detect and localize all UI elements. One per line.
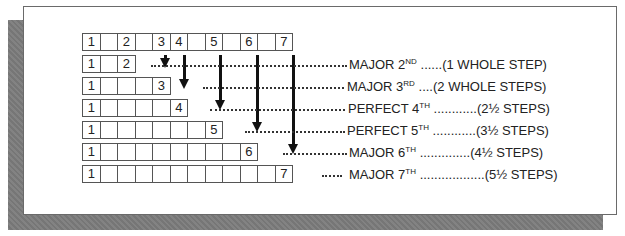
dot-leader: .................. — [420, 167, 485, 182]
empty-cell — [152, 143, 171, 161]
empty-cell — [152, 99, 171, 117]
interval-name: MAJOR 6 — [349, 145, 405, 160]
interval-row-major-3rd: 1 3 — [82, 77, 170, 95]
empty-cell — [135, 77, 154, 95]
ordinal-suffix: TH — [405, 167, 416, 176]
interval-name: MAJOR 7 — [349, 167, 405, 182]
step-count: (3½ STEPS) — [476, 123, 549, 138]
empty-cell — [135, 121, 154, 139]
interval-row-perfect-4th: 1 4 — [82, 99, 187, 117]
degree-cell: 7 — [275, 165, 294, 183]
dot-leader: .............. — [420, 145, 471, 160]
empty-cell — [222, 165, 241, 183]
interval-label: PERFECT 4TH ............(2½ STEPS) — [348, 101, 550, 117]
scale-cell: 1 — [82, 33, 101, 51]
leader-line — [283, 153, 347, 155]
empty-cell — [117, 143, 136, 161]
ordinal-suffix: ND — [405, 57, 417, 66]
interval-row-perfect-5th: 1 5 — [82, 121, 222, 139]
root-cell: 1 — [82, 143, 101, 161]
step-count: (2 WHOLE STEPS) — [433, 79, 546, 94]
step-count: (1 WHOLE STEP) — [442, 57, 547, 72]
interval-name: MAJOR 2 — [349, 57, 405, 72]
arrow-down-icon — [219, 55, 222, 101]
degree-cell: 4 — [170, 99, 189, 117]
empty-cell — [170, 165, 189, 183]
empty-cell — [187, 121, 206, 139]
empty-cell — [117, 121, 136, 139]
empty-cell — [135, 143, 154, 161]
empty-cell — [187, 165, 206, 183]
interval-label: MAJOR 7TH ..................(5½ STEPS) — [349, 167, 558, 183]
empty-cell — [117, 165, 136, 183]
empty-cell — [152, 165, 171, 183]
empty-cell — [135, 165, 154, 183]
scale-row: 1 2 3 4 5 6 7 — [82, 33, 292, 51]
leader-line — [203, 87, 344, 89]
degree-cell: 6 — [240, 143, 259, 161]
empty-cell — [100, 99, 119, 117]
root-cell: 1 — [82, 77, 101, 95]
empty-cell — [117, 99, 136, 117]
empty-cell — [152, 121, 171, 139]
scale-cell — [100, 33, 119, 51]
leader-line — [210, 109, 345, 111]
root-cell: 1 — [82, 121, 101, 139]
interval-label: MAJOR 2ND ......(1 WHOLE STEP) — [349, 57, 547, 73]
scale-cell — [187, 33, 206, 51]
scale-cell: 4 — [170, 33, 189, 51]
interval-label: MAJOR 3RD ....(2 WHOLE STEPS) — [347, 79, 546, 95]
step-count: (5½ STEPS) — [485, 167, 558, 182]
scale-cell: 3 — [152, 33, 171, 51]
ordinal-suffix: TH — [418, 123, 429, 132]
interval-name: PERFECT 4 — [348, 101, 419, 116]
root-cell: 1 — [82, 165, 101, 183]
dot-leader: ............ — [433, 123, 476, 138]
empty-cell — [257, 165, 276, 183]
empty-cell — [117, 77, 136, 95]
ordinal-suffix: RD — [403, 79, 415, 88]
interval-name: MAJOR 3 — [347, 79, 403, 94]
scale-cell: 5 — [205, 33, 224, 51]
step-count: (4½ STEPS) — [470, 145, 543, 160]
empty-cell — [135, 99, 154, 117]
dot-leader: .... — [419, 79, 433, 94]
interval-row-major-2nd: 1 2 — [82, 55, 135, 73]
leader-line — [151, 65, 347, 67]
root-cell: 1 — [82, 55, 101, 73]
scale-cell — [135, 33, 154, 51]
scale-cell — [257, 33, 276, 51]
empty-cell — [100, 77, 119, 95]
leader-line — [245, 131, 345, 133]
degree-cell: 2 — [117, 55, 136, 73]
arrow-down-icon — [183, 55, 186, 80]
empty-cell — [187, 143, 206, 161]
interval-row-major-7th: 1 7 — [82, 165, 292, 183]
degree-cell: 5 — [205, 121, 224, 139]
empty-cell — [100, 143, 119, 161]
scale-cell: 2 — [117, 33, 136, 51]
interval-label: MAJOR 6TH ..............(4½ STEPS) — [349, 145, 543, 161]
leader-line — [322, 175, 342, 177]
scale-cell: 6 — [240, 33, 259, 51]
interval-name: PERFECT 5 — [347, 123, 418, 138]
empty-cell — [170, 121, 189, 139]
interval-row-major-6th: 1 6 — [82, 143, 257, 161]
empty-cell — [170, 143, 189, 161]
interval-label: PERFECT 5TH ............(3½ STEPS) — [347, 123, 549, 139]
arrow-down-icon — [164, 55, 167, 59]
ordinal-suffix: TH — [419, 101, 430, 110]
root-cell: 1 — [82, 99, 101, 117]
empty-cell — [100, 55, 119, 73]
empty-cell — [205, 143, 224, 161]
scale-cell — [222, 33, 241, 51]
ordinal-suffix: TH — [405, 145, 416, 154]
dot-leader: ............ — [434, 101, 477, 116]
empty-cell — [240, 165, 259, 183]
step-count: (2½ STEPS) — [477, 101, 550, 116]
empty-cell — [222, 143, 241, 161]
dot-leader: ...... — [421, 57, 443, 72]
empty-cell — [205, 165, 224, 183]
empty-cell — [100, 121, 119, 139]
scale-cell: 7 — [275, 33, 294, 51]
